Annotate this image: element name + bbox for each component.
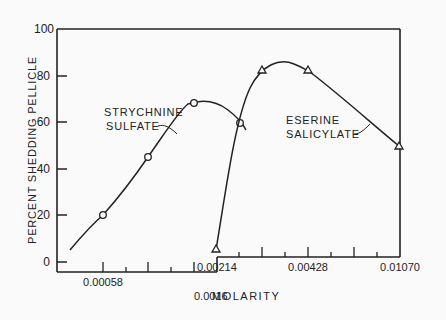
chart: 0 20 40 60 80 100 0.00058 0.0016 0.00214… <box>0 0 446 320</box>
svg-text:SALICYLATE: SALICYLATE <box>286 128 360 140</box>
eserine-salicylate-line <box>216 62 400 250</box>
x-tick-00428: 0.00428 <box>288 261 328 273</box>
eserine-annotation: ESERINE SALICYLATE <box>286 114 360 140</box>
plot-frame <box>57 29 400 272</box>
y-tick-80: 80 <box>37 69 51 83</box>
x-tick-00058: 0.00058 <box>83 276 123 288</box>
x-axis-ticks-lower <box>103 262 194 272</box>
y-tick-0: 0 <box>43 255 50 269</box>
x-tick-00214: 0.00214 <box>197 261 237 273</box>
x-tick-01070: 0.01070 <box>380 261 420 273</box>
eserine-markers <box>212 66 403 252</box>
y-axis-ticks <box>57 76 67 262</box>
svg-text:STRYCHNINE: STRYCHNINE <box>104 106 183 118</box>
y-tick-100: 100 <box>34 22 54 36</box>
y-tick-60: 60 <box>37 115 51 129</box>
y-tick-20: 20 <box>37 208 51 222</box>
y-tick-40: 40 <box>37 162 51 176</box>
x-axis-ticks-upper <box>239 247 377 257</box>
strychnine-annotation: STRYCHNINE SULFATE <box>104 106 183 132</box>
svg-text:SULFATE: SULFATE <box>106 120 160 132</box>
y-axis-label: PERCENT SHEDDING PELLICLE <box>26 56 38 244</box>
svg-text:ESERINE: ESERINE <box>286 114 340 126</box>
x-axis-label: MOLARITY <box>212 290 280 302</box>
